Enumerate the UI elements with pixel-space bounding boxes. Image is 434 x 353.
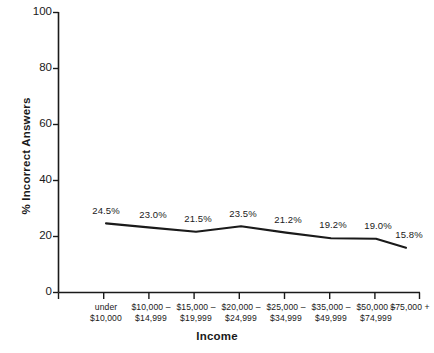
x-category-label-3: $20,000 – $24,999	[221, 302, 260, 324]
line-chart: % Incorrect Answers 100 80 60 40 20 0	[0, 0, 434, 353]
x-axis-title: Income	[0, 330, 434, 342]
x-category-label-1: $10,000 – $14,999	[131, 302, 170, 324]
x-category-label-2-line2: $19,999	[176, 313, 215, 324]
x-category-label-0-line2: $10,000	[90, 313, 122, 324]
x-category-label-2-line1: $15,000 –	[176, 302, 215, 312]
y-axis-ticks	[53, 13, 59, 293]
data-label-3: 23.5%	[229, 209, 256, 219]
data-label-1: 23.0%	[139, 210, 166, 220]
x-category-label-7-line1: $75,000 +	[390, 302, 429, 312]
x-category-label-3-line1: $20,000 –	[221, 302, 260, 312]
data-series-line	[106, 223, 406, 247]
x-category-label-5-line1: $35,000 –	[311, 302, 350, 312]
data-label-0: 24.5%	[92, 206, 119, 216]
x-category-label-2: $15,000 – $19,999	[176, 302, 215, 324]
data-label-2: 21.5%	[184, 214, 211, 224]
x-category-label-1-line2: $14,999	[131, 313, 170, 324]
data-label-7: 15.8%	[395, 230, 422, 240]
data-label-5: 19.2%	[319, 220, 346, 230]
x-category-label-4-line2: $34,999	[266, 313, 305, 324]
x-category-label-1-line1: $10,000 –	[131, 302, 170, 312]
x-category-label-3-line2: $24,999	[221, 313, 260, 324]
x-category-label-5: $35,000 – $49,999	[311, 302, 350, 324]
data-label-4: 21.2%	[274, 215, 301, 225]
x-category-label-4: $25,000 – $34,999	[266, 302, 305, 324]
plot-area	[0, 0, 434, 353]
x-category-label-0-line1: under	[95, 302, 117, 312]
data-label-6: 19.0%	[364, 221, 391, 231]
x-category-label-4-line1: $25,000 –	[266, 302, 305, 312]
x-category-label-0: under $10,000	[90, 302, 122, 324]
x-category-label-7: $75,000 +	[390, 302, 429, 313]
x-category-label-5-line2: $49,999	[311, 313, 350, 324]
x-axis-ticks	[59, 293, 420, 300]
x-category-label-6-line2: $74,999	[356, 313, 395, 324]
